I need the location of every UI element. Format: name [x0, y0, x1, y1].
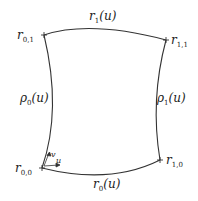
- label-corner-r00: r0,0: [15, 162, 32, 177]
- label-bottom-edge: r0(u): [93, 178, 120, 193]
- corner-markers: [39, 32, 169, 171]
- label-corner-r01: r0,1: [17, 29, 34, 44]
- label-axis-v: v: [51, 151, 56, 159]
- label-axis-u: u: [56, 157, 61, 165]
- label-left-edge: ρ0(u): [20, 92, 49, 107]
- label-right-edge: ρ1(u): [157, 92, 186, 107]
- edge-top: [44, 29, 166, 40]
- label-corner-r11: r1,1: [171, 34, 188, 49]
- label-top-edge: r1(u): [89, 10, 116, 25]
- label-corner-r10: r1,0: [166, 154, 183, 169]
- coons-patch-diagram: r1(u) r0(u) ρ0(u) ρ1(u) r0,1 r1,1 r0,0 r…: [0, 0, 198, 201]
